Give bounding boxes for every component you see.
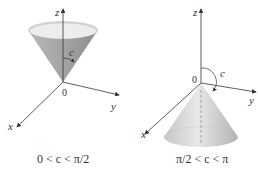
left-figure: z y x 0 c [7,6,119,132]
left-origin-label: 0 [62,87,67,98]
left-x-label: x [7,120,13,132]
left-x-axis [17,82,63,127]
left-y-axis [63,82,119,95]
diagram-canvas: z y x 0 c z y x 0 c [0,0,258,175]
left-y-label: y [110,100,116,112]
right-origin-label: 0 [192,74,197,85]
right-x-label: x [140,128,146,140]
right-y-label: y [248,94,254,106]
right-y-axis [201,83,256,92]
left-z-label: z [54,6,60,18]
right-z-label: z [192,6,198,18]
right-cone [164,83,238,147]
right-caption: π/2 < c < π [176,152,228,167]
right-angle-label: c [220,67,225,79]
left-caption: 0 < c < π/2 [37,152,89,167]
left-angle-label: c [69,46,74,58]
right-figure: z y x 0 c [140,6,256,147]
